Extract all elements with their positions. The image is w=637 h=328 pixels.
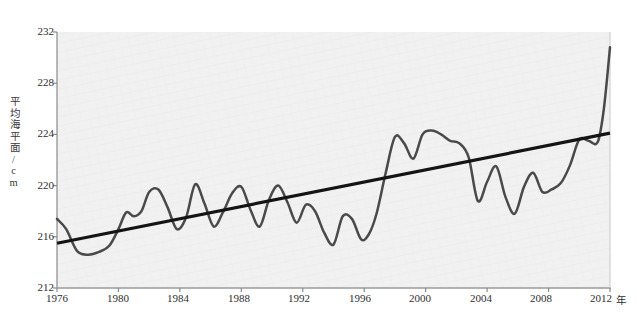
x-tick-label: 1996 [338, 292, 382, 304]
plot-area [0, 0, 637, 328]
y-tick-label: 224 [28, 127, 54, 139]
y-tick-label: 232 [28, 25, 54, 37]
y-axis-tick-labels: 232 228 224 220 216 212 [24, 0, 54, 328]
x-tick-label: 2000 [398, 292, 442, 304]
y-tick-label: 220 [28, 179, 54, 191]
x-tick-label: 2004 [459, 292, 503, 304]
x-axis-unit-label: 年 [616, 292, 626, 307]
x-tick-label: 1980 [96, 292, 140, 304]
y-tick-label: 216 [28, 230, 54, 242]
x-tick-label: 2008 [519, 292, 563, 304]
plot-background [57, 32, 610, 288]
y-axis-title: 平均海平面/cm [4, 96, 22, 188]
x-tick-label: 1984 [156, 292, 200, 304]
x-tick-label: 1992 [277, 292, 321, 304]
x-tick-label: 1976 [35, 292, 79, 304]
x-tick-label: 1988 [217, 292, 261, 304]
chart-container: 平均海平面/cm 232 228 224 220 216 212 1976 19… [0, 0, 637, 328]
y-tick-label: 228 [28, 76, 54, 88]
